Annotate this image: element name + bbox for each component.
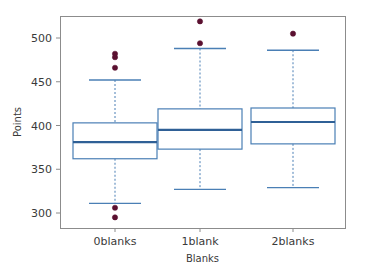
x-axis-tick-label: 2blanks — [272, 235, 315, 248]
x-axis-tick-label: 0blanks — [94, 235, 137, 248]
outlier-point — [112, 215, 117, 220]
outlier-point — [112, 65, 117, 70]
outlier-point — [197, 19, 202, 24]
y-axis-tick-label: 350 — [31, 163, 52, 176]
chart-canvas: 300350400450500Points0blanks1blank2blank… — [0, 0, 365, 272]
y-axis-tick-label: 400 — [31, 120, 52, 133]
outlier-point — [290, 31, 295, 36]
outlier-point — [112, 205, 117, 210]
outlier-point — [112, 55, 117, 60]
x-axis-tick-label: 1blank — [181, 235, 219, 248]
y-axis-title: Points — [12, 107, 23, 137]
y-axis-tick-label: 300 — [31, 207, 52, 220]
outlier-point — [197, 41, 202, 46]
y-axis-tick-label: 450 — [31, 76, 52, 89]
y-axis-tick-label: 500 — [31, 32, 52, 45]
x-axis-title: Blanks — [186, 253, 219, 264]
boxplot-chart: 300350400450500Points0blanks1blank2blank… — [0, 0, 365, 272]
